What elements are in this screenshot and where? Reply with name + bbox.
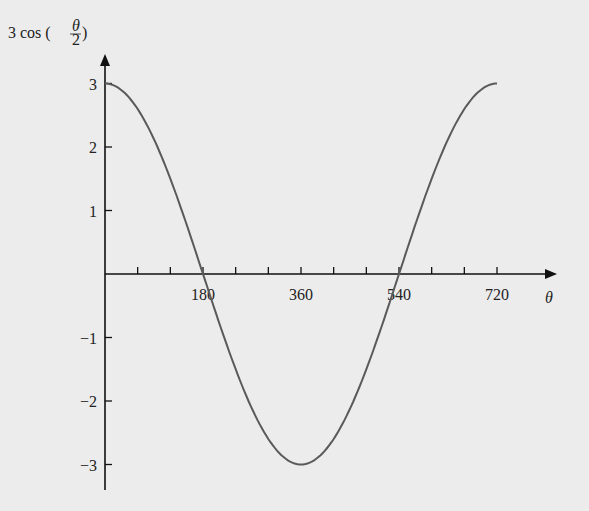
- svg-text:3 cos (: 3 cos (: [8, 24, 51, 42]
- y-axis-label: 3 cos ( θ 2 ): [8, 17, 87, 48]
- y-tick-label: −1: [80, 330, 97, 347]
- x-tick-label: 720: [485, 286, 509, 303]
- svg-text:2: 2: [72, 31, 80, 48]
- x-tick-label: 360: [289, 286, 313, 303]
- y-tick-label: 1: [89, 203, 97, 220]
- x-axis-label: θ: [545, 289, 553, 306]
- chart: 180360540720 321−1−2−3 θ 3 cos ( θ 2 ): [0, 0, 589, 511]
- y-tick-label: −3: [80, 457, 97, 474]
- x-ticks: 180360540720: [138, 267, 509, 303]
- y-tick-label: 3: [89, 76, 97, 93]
- svg-text:): ): [82, 24, 87, 42]
- y-tick-label: −2: [80, 393, 97, 410]
- y-tick-label: 2: [89, 139, 97, 156]
